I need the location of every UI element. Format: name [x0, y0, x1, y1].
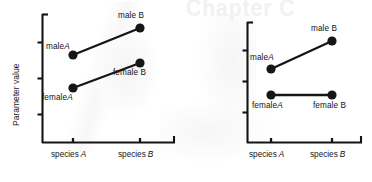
point-label-female-a-text: female — [42, 93, 67, 102]
data-point-female-a — [68, 83, 77, 92]
x-tick-label-species-a: speciesA — [249, 150, 284, 159]
chart-panel-left: Parameter value maleA male B femaleA fem… — [0, 0, 190, 182]
point-label-female-a-species: A — [67, 93, 73, 102]
x-tick-label-species-b: speciesB — [310, 150, 345, 159]
x-tick-label-species-a-letter: A — [277, 150, 284, 159]
data-point-male-a — [68, 50, 77, 59]
point-label-female-b: female B — [113, 68, 146, 77]
data-point-male-a — [266, 64, 275, 73]
x-tick-label-species-a: speciesA — [51, 150, 86, 159]
point-label-female-a: femaleA — [252, 101, 283, 110]
point-label-male-a: maleA — [46, 42, 70, 51]
x-tick-label-species-b-text: species — [118, 150, 146, 159]
point-label-female-b: female B — [313, 101, 346, 110]
point-label-female-a-species: A — [277, 101, 283, 110]
data-point-female-b — [135, 58, 144, 67]
data-point-female-b — [327, 90, 336, 99]
data-point-female-a — [266, 90, 275, 99]
point-label-male-a-text: male — [46, 42, 64, 51]
x-tick-label-species-a-text: species — [51, 150, 79, 159]
male-series-line — [271, 41, 332, 69]
point-label-female-a: femaleA — [42, 93, 73, 102]
x-tick-label-species-b-letter: B — [338, 150, 345, 159]
data-point-male-b — [327, 36, 336, 45]
point-label-female-a-text: female — [252, 101, 277, 110]
x-tick-label-species-a-text: species — [249, 150, 277, 159]
point-label-male-b: male B — [311, 24, 337, 33]
point-label-male-a-species: A — [64, 42, 70, 51]
male-series-line — [73, 28, 140, 55]
data-point-male-b — [135, 23, 144, 32]
x-tick-label-species-b-text: species — [310, 150, 338, 159]
left-axes-svg — [0, 0, 190, 182]
x-tick-label-species-b-letter: B — [146, 150, 153, 159]
point-label-male-b: male B — [118, 11, 144, 20]
point-label-male-a-species: A — [268, 53, 274, 62]
point-label-male-a: maleA — [250, 53, 274, 62]
point-label-male-a-text: male — [250, 53, 268, 62]
x-tick-label-species-a-letter: A — [79, 150, 86, 159]
chart-panel-right: maleA male B femaleA female B speciesA s… — [186, 0, 372, 182]
x-tick-label-species-b: speciesB — [118, 150, 153, 159]
